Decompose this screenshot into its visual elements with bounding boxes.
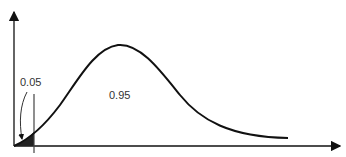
body-area-label: 0.95 — [109, 89, 130, 101]
density-curve — [14, 45, 288, 146]
tail-pointer-arrow — [20, 92, 27, 139]
distribution-diagram — [0, 0, 346, 157]
tail-area-label: 0.05 — [20, 76, 41, 88]
